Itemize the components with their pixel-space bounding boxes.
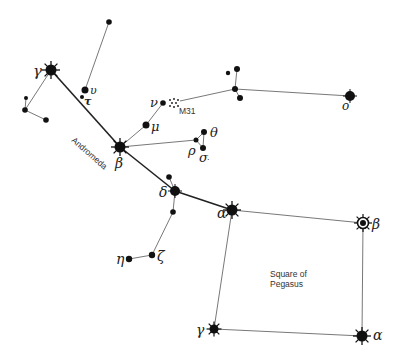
star-zeta-icon <box>149 252 155 258</box>
star-theta-icon <box>201 129 207 135</box>
label-sigma-dot: . <box>207 152 210 162</box>
star-chart: γ β δ α β γ α μ ν υ τ ρ θ σ . ζ η o M31 … <box>0 0 401 362</box>
star-left-a-icon <box>24 96 28 100</box>
label-square-of: Square of <box>270 269 307 279</box>
line-alpheratz-scheat <box>232 210 363 223</box>
label-markab: α <box>373 327 383 343</box>
line-markab-algenib <box>214 329 362 336</box>
star-markab-icon <box>353 327 371 345</box>
stars <box>22 19 372 345</box>
star-delta-above-icon <box>166 174 172 180</box>
label-omicron: o <box>342 99 349 113</box>
label-mu: μ <box>151 119 159 134</box>
star-rho-icon <box>194 138 199 143</box>
label-m31: M31 <box>179 106 196 116</box>
star-top-icon <box>106 19 112 25</box>
label-andromeda: Andromeda <box>70 135 110 172</box>
star-group-b-icon <box>226 71 230 75</box>
star-delta-below-icon <box>170 209 176 215</box>
line-scheat-markab <box>362 223 363 336</box>
label-alpheratz: α <box>217 205 227 221</box>
line-algenib-alpheratz <box>214 210 232 329</box>
star-upsilon-icon <box>82 87 89 94</box>
star-and-beta-icon <box>111 138 129 156</box>
star-scheat-variable-icon <box>354 214 372 232</box>
line-group-omicron <box>235 89 350 96</box>
star-group-c-icon <box>232 86 238 92</box>
star-group-a-icon <box>234 66 240 72</box>
star-nu-icon <box>160 100 166 106</box>
label-and-gamma: γ <box>33 62 42 80</box>
label-zeta: ζ <box>157 248 166 264</box>
label-tau: τ <box>84 95 92 108</box>
star-eta-icon <box>126 256 132 262</box>
line-left-c <box>25 110 46 120</box>
line-m31-group <box>180 89 235 101</box>
star-and-gamma-icon <box>42 61 60 79</box>
line-zeta-eta <box>129 255 152 259</box>
constellation-lines <box>25 22 363 336</box>
line-gamma-beta <box>51 70 120 147</box>
star-left-b-icon <box>22 107 28 113</box>
label-pegasus: Pegasus <box>270 279 303 289</box>
line-beta-rho <box>120 140 196 147</box>
label-and-delta: δ <box>159 184 167 200</box>
label-nu: ν <box>150 95 158 110</box>
label-algenib: γ <box>196 322 205 338</box>
star-algenib-icon <box>207 322 222 337</box>
line-group-a <box>235 69 237 89</box>
galaxy-m31-icon <box>169 98 179 108</box>
label-rho: ρ <box>187 143 196 158</box>
label-scheat: β <box>371 216 380 232</box>
star-group-d-icon <box>237 95 243 101</box>
label-eta: η <box>116 251 125 267</box>
star-mu-icon <box>143 122 150 129</box>
star-left-c-icon <box>43 117 49 123</box>
label-theta: θ <box>210 125 218 140</box>
line-upsilon-top <box>85 22 109 90</box>
label-and-beta: β <box>114 155 123 171</box>
